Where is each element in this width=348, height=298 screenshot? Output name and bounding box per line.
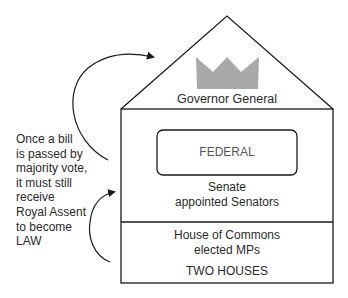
commons-label: House of Commons [121, 228, 333, 242]
senate-members-label: appointed Senators [121, 195, 333, 209]
crown-icon [196, 57, 259, 89]
senate-label: Senate [121, 180, 333, 194]
royal-assent-note: Once a bill is passed by majority vote, … [16, 132, 87, 249]
two-houses-label: TWO HOUSES [121, 264, 333, 278]
federal-label: FEDERAL [157, 145, 297, 159]
arrow-to-senate-icon [90, 192, 114, 262]
governor-general-label: Governor General [121, 92, 333, 106]
commons-members-label: elected MPs [121, 243, 333, 257]
